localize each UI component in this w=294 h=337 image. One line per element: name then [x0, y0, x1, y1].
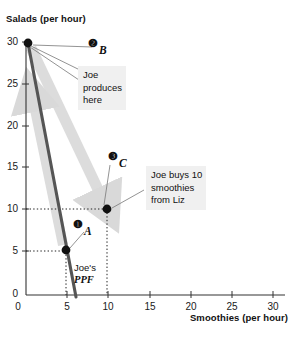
y-tick-20: 20 [0, 120, 18, 131]
y-tick-10: 10 [0, 203, 18, 214]
chart-figure: Salads (per hour) Smoothies (per hour) 0… [0, 0, 294, 337]
y-tick-0: 0 [0, 288, 18, 299]
y-tick-5: 5 [0, 245, 18, 256]
point-label-a: A [84, 225, 92, 237]
ppf-caption-line2: PPF [74, 274, 96, 286]
point-label-b: B [99, 44, 107, 56]
step-marker-2: ❷ [87, 38, 99, 50]
x-tick-0: 0 [9, 301, 27, 312]
annotation-joe-produces-line1: Joe [83, 69, 122, 82]
annotation-joe-produces-line2: produces [83, 82, 122, 95]
ppf-caption-line1: Joe's [74, 262, 96, 274]
arrow-a-to-b [33, 100, 63, 245]
annotation-joe-buys-line1: Joe buys 10 [151, 169, 202, 182]
point-label-c: C [119, 157, 127, 169]
annotation-joe-buys: Joe buys 10 smoothies from Liz [146, 166, 206, 210]
y-tick-15: 15 [0, 161, 18, 172]
x-tick-10: 10 [99, 301, 117, 312]
x-tick-30: 30 [264, 301, 282, 312]
annotation-joe-produces-line3: here [83, 94, 122, 107]
x-tick-25: 25 [223, 301, 241, 312]
point-b-marker [24, 39, 33, 48]
step-marker-3: ❸ [107, 151, 119, 163]
annotation-joe-buys-line3: from Liz [151, 194, 202, 207]
point-c-marker [103, 205, 112, 214]
annotation-joe-buys-line2: smoothies [151, 182, 202, 195]
x-axis-title: Smoothies (per hour) [190, 312, 288, 323]
y-tick-30: 30 [0, 36, 18, 47]
x-tick-5: 5 [58, 301, 76, 312]
x-tick-20: 20 [182, 301, 200, 312]
y-tick-25: 25 [0, 78, 18, 89]
x-tick-15: 15 [141, 301, 159, 312]
annotation-joe-produces: Joe produces here [78, 66, 126, 110]
y-axis-title: Salads (per hour) [6, 13, 86, 24]
ppf-caption: Joe's PPF [74, 262, 96, 285]
point-a-marker [62, 246, 71, 255]
step-marker-1: ❶ [72, 219, 84, 231]
